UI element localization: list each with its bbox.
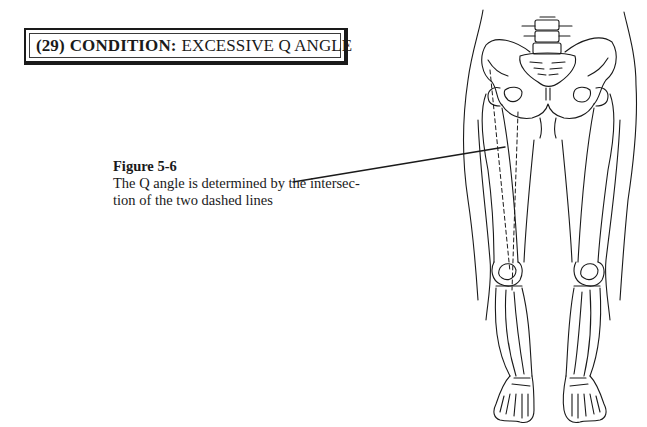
q-angle-line-asis-to-patella: [490, 70, 510, 272]
caption-leader-line: [293, 147, 505, 182]
q-angle-line-tibial-tuberosity: [512, 112, 518, 290]
lower-leg-right: [495, 288, 532, 376]
skeleton-illustration: [0, 0, 647, 427]
knee-right: [492, 262, 522, 286]
foot-right: [494, 376, 534, 423]
femur-left: [578, 87, 614, 262]
thigh-outline: [478, 120, 620, 320]
foot-left: [563, 376, 606, 423]
lower-leg-left: [566, 288, 601, 376]
spine: [522, 17, 572, 54]
knee-left: [574, 262, 604, 286]
